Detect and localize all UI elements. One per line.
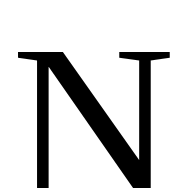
letter-glyph-container: N xyxy=(0,0,180,188)
letter-canvas: N xyxy=(0,0,180,188)
letter-n: N xyxy=(11,12,175,188)
